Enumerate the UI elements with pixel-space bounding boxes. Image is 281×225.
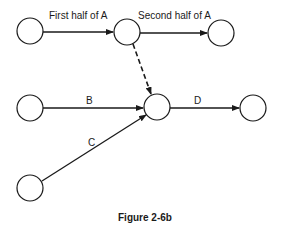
- network-diagram: [0, 0, 281, 225]
- label-second-half-a: Second half of A: [138, 11, 211, 21]
- edge-c: [42, 115, 146, 181]
- node-4: [17, 95, 43, 121]
- node-1: [17, 18, 43, 44]
- node-6: [240, 95, 266, 121]
- node-3: [208, 20, 234, 46]
- node-7: [17, 175, 43, 201]
- label-first-half-a: First half of A: [49, 11, 107, 21]
- label-b: B: [86, 96, 93, 106]
- figure-caption: Figure 2-6b: [118, 213, 172, 223]
- label-d: D: [194, 96, 201, 106]
- edge-dummy-dashed: [133, 44, 151, 94]
- node-2: [114, 19, 140, 45]
- label-c: C: [88, 138, 95, 148]
- node-5: [144, 94, 170, 120]
